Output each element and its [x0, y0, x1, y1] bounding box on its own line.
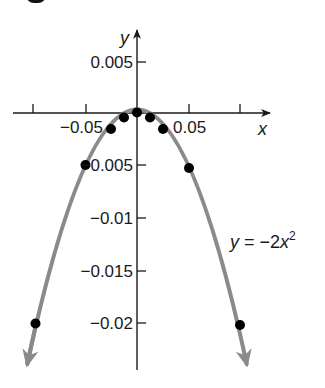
y-tick-label-neg-0.02: −0.02 [90, 314, 133, 333]
point-pos-0.01 [145, 113, 155, 123]
point-neg-0.02 [106, 124, 116, 134]
y-ticks [137, 62, 146, 323]
point-neg-0.01 [119, 113, 129, 123]
equation-label: y = −2x2 [228, 229, 296, 252]
y-tick-label-0.005: 0.005 [90, 53, 133, 72]
y-tick-label-neg-0.01: −0.01 [90, 209, 133, 228]
x-tick-label-0.05: 0.05 [173, 118, 206, 137]
parabola-chart: y x −0.05 0.05 0.005 −0.005 −0.01 −0.015… [0, 0, 325, 388]
point-pos-0.05 [184, 163, 194, 173]
point-neg-0.1 [31, 319, 41, 329]
x-axis-title: x [257, 119, 268, 139]
point-pos-0.02 [158, 124, 168, 134]
equation-exponent: 2 [289, 229, 296, 243]
x-tick-label-neg-0.05: −0.05 [60, 118, 103, 137]
parabola-curve-left-arrow [27, 324, 36, 364]
point-pos-0.1 [235, 320, 245, 330]
y-tick-label-neg-0.005: −0.005 [81, 156, 133, 175]
data-points [31, 108, 246, 331]
equation-rhs: = −2 [239, 232, 280, 252]
y-tick-label-neg-0.015: −0.015 [81, 262, 133, 281]
y-axis-title: y [118, 28, 130, 48]
point-origin [132, 108, 142, 118]
